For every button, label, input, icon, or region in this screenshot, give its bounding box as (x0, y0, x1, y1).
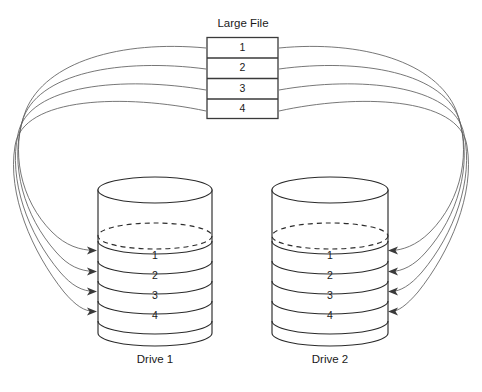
drive-2-top-surface (272, 177, 388, 203)
drive-2-stripe-2-label: 2 (327, 269, 333, 281)
drive-2-stripe-1-label: 1 (327, 249, 333, 261)
raid-striping-diagram: Large File 1 2 3 4 1 2 3 (0, 0, 482, 392)
flow-arrowhead-left-2 (87, 268, 97, 276)
flow-arrowhead-left-4 (87, 308, 97, 316)
flow-arrowhead-right-4 (388, 308, 398, 316)
flow-arrowhead-left-3 (87, 288, 97, 296)
drive-2-group: 1 2 3 4 Drive 2 (272, 177, 388, 365)
drive-1-stripe-3-label: 3 (152, 289, 158, 301)
drive-1-stripe-1-label: 1 (152, 249, 158, 261)
diagram-canvas: Large File 1 2 3 4 1 2 3 (0, 0, 482, 392)
large-file-title: Large File (217, 17, 268, 29)
drive-1-caption: Drive 1 (137, 353, 173, 365)
drive-2-caption: Drive 2 (312, 353, 348, 365)
large-file-block-3-label: 3 (240, 82, 246, 94)
large-file-group: Large File 1 2 3 4 (207, 17, 278, 118)
large-file-block-4-label: 4 (240, 102, 246, 114)
drive-2-stripe-4-label: 4 (327, 309, 333, 321)
large-file-block-2-label: 2 (240, 61, 246, 73)
flow-arrowhead-right-2 (388, 268, 398, 276)
drive-1-top-surface (98, 177, 212, 203)
drive-1-group: 1 2 3 4 Drive 1 (98, 177, 212, 365)
large-file-block-1-label: 1 (240, 41, 246, 53)
drive-1-stripe-2-label: 2 (152, 269, 158, 281)
drive-2-stripe-3-label: 3 (327, 289, 333, 301)
drive-1-stripe-4-label: 4 (152, 309, 158, 321)
flow-arrowhead-right-3 (388, 288, 398, 296)
